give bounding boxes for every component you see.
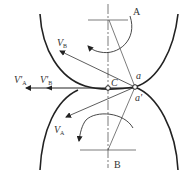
gear-contact-diagram: A B C a a' VB VA V'A V'B <box>0 0 186 180</box>
label-a-center: A <box>133 6 141 17</box>
point-c <box>106 86 111 91</box>
label-vb: VB <box>57 37 67 49</box>
label-va-prime: V'A <box>14 74 27 86</box>
label-c: C <box>111 77 118 88</box>
label-point-a: a <box>136 70 141 81</box>
rotation-arrow-b <box>79 114 133 141</box>
velocity-vb-arrow <box>60 51 135 87</box>
label-point-a-prime: a' <box>135 92 143 103</box>
label-va: VA <box>54 124 65 136</box>
label-vb-prime: V'B <box>40 74 52 86</box>
velocity-vb-prime-arrowhead <box>46 86 52 91</box>
radius-b <box>108 87 135 150</box>
point-a <box>133 85 138 90</box>
label-b-center: B <box>114 159 121 170</box>
